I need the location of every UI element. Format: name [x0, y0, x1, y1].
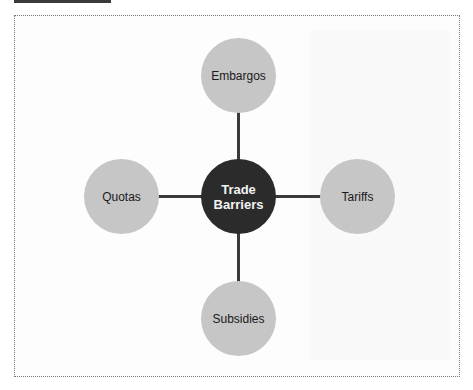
- node-tariffs: Tariffs: [320, 159, 395, 234]
- node-subsidies: Subsidies: [201, 281, 276, 356]
- node-embargos: Embargos: [201, 38, 276, 113]
- center-label-line2: Barriers: [214, 197, 264, 212]
- center-label-line1: Trade: [214, 182, 264, 197]
- node-label: Quotas: [102, 190, 141, 204]
- node-quotas: Quotas: [84, 159, 159, 234]
- node-label: Subsidies: [212, 312, 264, 326]
- node-trade-barriers: Trade Barriers: [201, 159, 276, 234]
- header-bar: [14, 0, 111, 3]
- node-label: Tariffs: [342, 190, 374, 204]
- node-label: Embargos: [211, 69, 266, 83]
